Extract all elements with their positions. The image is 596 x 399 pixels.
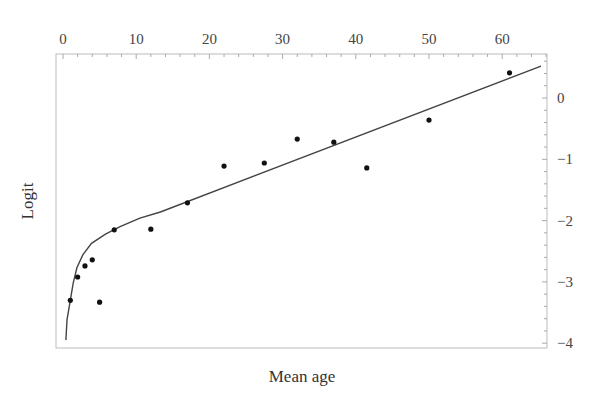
data-point	[185, 200, 190, 205]
fitted-curve	[66, 66, 541, 340]
y-tick-label: −4	[557, 335, 573, 351]
data-point	[221, 163, 226, 168]
x-tick-label: 40	[348, 31, 363, 47]
x-tick-label: 10	[129, 31, 144, 47]
x-tick-label: 0	[59, 31, 67, 47]
x-tick-label: 60	[495, 31, 510, 47]
x-axis-ticks: 0102030405060	[59, 31, 546, 59]
data-point	[75, 274, 80, 279]
y-tick-label: 0	[557, 90, 565, 106]
data-point	[507, 70, 512, 75]
data-point	[68, 298, 73, 303]
y-tick-label: −1	[557, 151, 573, 167]
data-point	[148, 227, 153, 232]
data-point	[262, 160, 267, 165]
data-point	[82, 263, 87, 268]
data-point	[97, 300, 102, 305]
x-tick-label: 30	[275, 31, 290, 47]
data-point	[364, 165, 369, 170]
data-point	[295, 136, 300, 141]
data-point	[426, 117, 431, 122]
data-points	[68, 70, 512, 304]
plot-frame	[56, 54, 547, 348]
data-point	[331, 140, 336, 145]
chart: 0102030405060 0−1−2−3−4 Mean age Logit	[0, 0, 596, 399]
data-point	[90, 257, 95, 262]
data-point	[112, 227, 117, 232]
y-axis-label: Logit	[18, 182, 37, 219]
y-tick-label: −2	[557, 213, 573, 229]
x-tick-label: 50	[422, 31, 437, 47]
y-tick-label: −3	[557, 274, 573, 290]
x-tick-label: 20	[202, 31, 217, 47]
x-axis-label: Mean age	[269, 367, 336, 386]
